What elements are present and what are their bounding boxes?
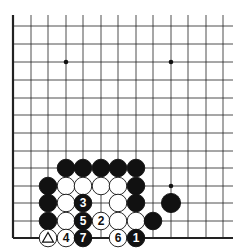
white-stone bbox=[57, 212, 75, 230]
white-stone bbox=[57, 177, 75, 195]
black-stone: 5 bbox=[74, 212, 92, 230]
white-stone bbox=[74, 177, 92, 195]
black-stone bbox=[92, 159, 110, 177]
move-number: 5 bbox=[80, 214, 87, 228]
white-stone: 6 bbox=[109, 229, 127, 247]
hoshi-point-icon bbox=[64, 60, 69, 65]
move-number: 3 bbox=[80, 196, 87, 210]
black-stone bbox=[57, 159, 75, 177]
black-stone bbox=[74, 159, 92, 177]
white-stone: 4 bbox=[57, 229, 75, 247]
move-number: 2 bbox=[98, 214, 105, 228]
white-stone: 2 bbox=[92, 212, 110, 230]
black-stone bbox=[161, 193, 180, 212]
white-stone bbox=[57, 194, 75, 212]
black-stone: 1 bbox=[127, 229, 145, 247]
hoshi-point-icon bbox=[169, 60, 174, 65]
black-stone bbox=[144, 212, 162, 230]
black-stone bbox=[127, 194, 145, 212]
white-stone bbox=[109, 212, 127, 230]
black-stone bbox=[127, 177, 145, 195]
move-number: 7 bbox=[80, 231, 87, 245]
white-stone bbox=[127, 212, 145, 230]
black-stone bbox=[39, 194, 57, 212]
white-stone bbox=[39, 229, 57, 247]
move-number: 6 bbox=[115, 231, 122, 245]
white-stone bbox=[109, 177, 127, 195]
white-stone bbox=[92, 177, 110, 195]
black-stone: 7 bbox=[74, 229, 92, 247]
move-number: 4 bbox=[63, 231, 70, 245]
move-number: 1 bbox=[133, 231, 140, 245]
hoshi-point-icon bbox=[169, 184, 174, 189]
black-stone bbox=[39, 177, 57, 195]
black-stone bbox=[109, 159, 127, 177]
white-stone bbox=[109, 194, 127, 212]
go-board: 3524761 bbox=[0, 0, 245, 249]
black-stone: 3 bbox=[74, 194, 92, 212]
black-stone bbox=[127, 159, 145, 177]
black-stone bbox=[39, 212, 57, 230]
